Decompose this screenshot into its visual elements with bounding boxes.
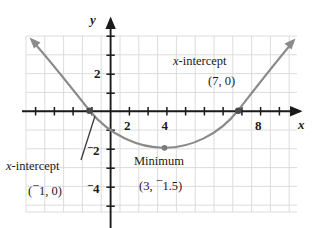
annotation-left-x-intercept-coord: (−1, 0) (28, 180, 62, 198)
y-tick-label-negative-2: −2 (87, 142, 100, 157)
annotation-right-x-intercept-title: x-intercept (173, 55, 226, 68)
negative-sign: − (32, 179, 39, 193)
y-axis-arrowhead (107, 19, 115, 28)
x-axis-arrowhead (291, 107, 300, 115)
annotation-minimum-title: Minimum (134, 155, 184, 168)
annotation-left-x-intercept-title: x-intercept (6, 160, 59, 173)
annotation-minimum-coord: (3, −1.5) (139, 175, 182, 193)
y-tick-label-2: 2 (94, 67, 101, 80)
x-tick-label-8: 8 (255, 119, 262, 132)
x-axis-label: x (298, 118, 305, 131)
y-axis-label: y (90, 13, 96, 26)
point-left-x-intercept (86, 108, 93, 115)
point-minimum (162, 145, 168, 151)
x-tick-label-4: 4 (162, 119, 169, 132)
point-right-x-intercept (235, 108, 242, 115)
curve-right-arrowhead (285, 39, 296, 50)
x-tick-label-2: 2 (124, 119, 131, 132)
graph-figure: 2 4 8 2 −2 −4 x y x-intercept (−1, 0) x-… (0, 0, 325, 228)
y-tick-label-negative-4: −4 (87, 180, 100, 195)
annotation-right-x-intercept-coord: (7, 0) (208, 75, 235, 88)
